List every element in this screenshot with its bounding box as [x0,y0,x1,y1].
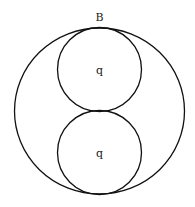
diagram-canvas: B q q [0,0,195,207]
label-q-top: q [96,64,103,77]
label-b: B [95,11,103,24]
label-q-bottom: q [96,147,103,160]
